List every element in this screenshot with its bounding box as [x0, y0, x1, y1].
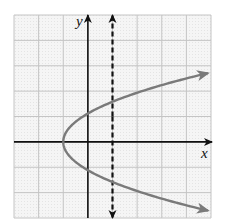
y-axis-label: y: [74, 13, 83, 29]
x-axis-label: x: [200, 145, 208, 161]
graph: y x: [0, 0, 228, 224]
